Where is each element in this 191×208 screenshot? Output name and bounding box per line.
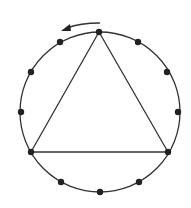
point-2 bbox=[28, 69, 34, 75]
point-5 bbox=[58, 179, 64, 185]
point-0 bbox=[96, 29, 102, 35]
point-10 bbox=[164, 69, 170, 75]
rotation-arrow-icon bbox=[61, 23, 100, 31]
point-3 bbox=[18, 109, 24, 115]
point-9 bbox=[175, 109, 181, 115]
point-8 bbox=[165, 149, 171, 155]
inscribed-triangle bbox=[31, 32, 168, 152]
point-6 bbox=[97, 189, 103, 195]
point-11 bbox=[135, 39, 141, 45]
point-1 bbox=[57, 39, 63, 45]
points bbox=[18, 29, 181, 195]
point-7 bbox=[136, 179, 142, 185]
point-4 bbox=[28, 149, 34, 155]
outer-circle bbox=[20, 32, 180, 192]
circle-triangle-diagram bbox=[0, 0, 191, 208]
